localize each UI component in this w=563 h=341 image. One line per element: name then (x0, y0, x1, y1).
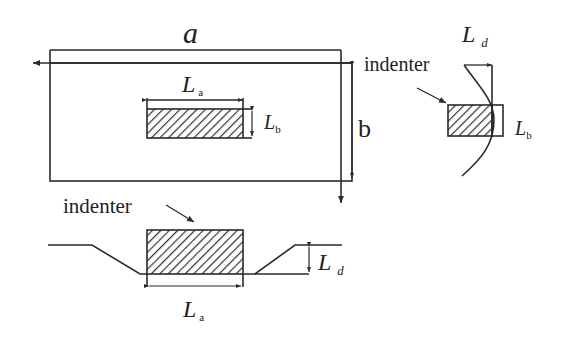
label-lb-side: Lb (515, 118, 532, 141)
indentation-diagram (0, 0, 563, 341)
label-ld-main: L (462, 21, 475, 47)
indenter-side (448, 105, 492, 136)
label-b: b (358, 116, 371, 142)
label-la-top: La (182, 72, 203, 98)
indenter-arrow-front (166, 205, 194, 222)
surface-left (48, 245, 147, 274)
indenter-arrow-side (417, 88, 446, 103)
label-la-sub: a (198, 86, 203, 98)
label-lb-top: Lb (264, 112, 281, 135)
label-ld-front-sub: d (337, 263, 344, 278)
indent-area-top (147, 109, 243, 138)
label-lb-main: L (264, 111, 275, 133)
label-a: a (183, 18, 198, 48)
label-la-main: L (182, 71, 195, 97)
label-la-front: La (183, 297, 204, 323)
indenter-front (147, 230, 243, 274)
label-ld-front-main: L (318, 249, 331, 275)
label-indenter-side: indenter (364, 54, 430, 74)
label-ld-sub: d (481, 35, 488, 50)
side-view (417, 65, 503, 176)
label-lb-side-main: L (515, 117, 526, 139)
label-la-front-sub: a (199, 311, 204, 323)
label-indenter-front: indenter (63, 196, 132, 217)
label-lb-sub: b (275, 123, 281, 135)
label-ld-side: Ld (462, 22, 488, 49)
label-la-front-main: L (183, 296, 196, 322)
label-ld-front: Ld (318, 250, 344, 277)
label-lb-side-sub: b (526, 129, 532, 141)
